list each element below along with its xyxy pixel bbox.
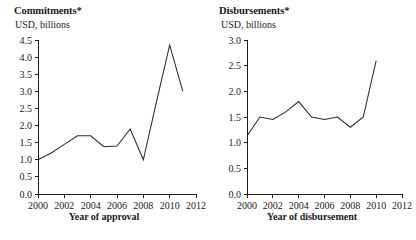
- y-tick-label: 3.5: [20, 69, 33, 80]
- y-tick-label: 2.0: [20, 120, 33, 131]
- two-panel-line-chart-figure: Commitments* USD, billions 0.00.51.01.52…: [0, 0, 416, 240]
- y-tick-label: 3.0: [229, 35, 242, 46]
- y-tick-label: 1.0: [229, 137, 242, 148]
- x-tick-label: 2000: [28, 200, 48, 211]
- chart-panel-disbursements: Disbursements* USD, billions 0.00.51.01.…: [208, 0, 416, 240]
- y-tick-label: 4.0: [20, 52, 33, 63]
- data-series-line: [38, 45, 183, 160]
- y-tick-label: 1.5: [20, 137, 33, 148]
- x-tick-label: 2012: [392, 200, 412, 211]
- x-tick-label: 2010: [366, 200, 386, 211]
- chart-panel-commitments: Commitments* USD, billions 0.00.51.01.52…: [0, 0, 208, 240]
- y-tick-label: 2.5: [229, 60, 242, 71]
- x-tick-label: 2002: [263, 200, 283, 211]
- x-tick-label: 2008: [340, 200, 360, 211]
- y-tick-label: 1.0: [20, 154, 33, 165]
- plot-area-disbursements: 0.00.51.01.52.02.53.02000200220042006200…: [208, 0, 416, 240]
- y-tick-label: 0.5: [229, 163, 242, 174]
- x-tick-label: 2008: [133, 200, 153, 211]
- y-tick-label: 4.5: [20, 35, 33, 46]
- x-tick-label: 2012: [186, 200, 206, 211]
- y-tick-label: 0.0: [20, 189, 33, 200]
- y-tick-label: 3.0: [20, 86, 33, 97]
- y-tick-label: 2.0: [229, 86, 242, 97]
- plot-area-commitments: 0.00.51.01.52.02.53.03.54.04.52000200220…: [0, 0, 208, 240]
- x-tick-label: 2002: [54, 200, 74, 211]
- x-tick-label: 2004: [81, 200, 101, 211]
- x-tick-label: 2004: [289, 200, 309, 211]
- y-tick-label: 0.0: [229, 189, 242, 200]
- x-tick-label: 2000: [237, 200, 257, 211]
- x-axis-caption-commitments: Year of approval: [0, 211, 208, 222]
- x-tick-label: 2006: [315, 200, 335, 211]
- data-series-line: [247, 61, 376, 136]
- x-tick-label: 2006: [107, 200, 127, 211]
- x-axis-caption-disbursements: Year of disbursement: [208, 211, 416, 222]
- y-tick-label: 0.5: [20, 171, 33, 182]
- x-tick-label: 2010: [160, 200, 180, 211]
- y-tick-label: 2.5: [20, 103, 33, 114]
- y-tick-label: 1.5: [229, 112, 242, 123]
